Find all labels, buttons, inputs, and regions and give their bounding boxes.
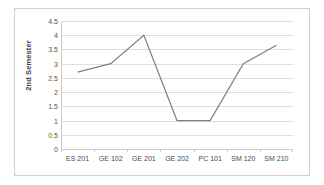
x-axis-tick-labels: ES 201GE 102GE 201GE 202PC 101SM 120SM 2…: [61, 155, 293, 169]
x-axis-tick-label: PC 101: [198, 155, 221, 162]
y-axis-tick-label: 0: [34, 146, 58, 153]
y-axis-tick-labels: 00.511.522.533.544.5: [31, 21, 58, 149]
x-axis-tick-label: GE 102: [99, 155, 123, 162]
y-axis-tick-label: 1.5: [34, 103, 58, 110]
x-axis-tick-label: GE 202: [165, 155, 189, 162]
x-axis-tick-marks: [61, 149, 293, 153]
y-axis-tick-label: 1: [34, 117, 58, 124]
y-axis-tick-label: 0.5: [34, 131, 58, 138]
x-axis-tick-label: SM 210: [264, 155, 288, 162]
x-axis-tick-mark: [194, 149, 195, 152]
y-axis-tick-label: 2.5: [34, 74, 58, 81]
y-axis-tick-label: 3.5: [34, 46, 58, 53]
x-axis-tick-mark: [127, 149, 128, 152]
y-axis-tick-label: 4.5: [34, 18, 58, 25]
x-axis-tick-label: SM 120: [231, 155, 255, 162]
y-axis-tick-label: 3: [34, 60, 58, 67]
y-axis-tick-label: 2: [34, 89, 58, 96]
y-axis-tick-label: 4: [34, 32, 58, 39]
x-axis-tick-label: ES 201: [66, 155, 89, 162]
x-axis-tick-label: GE 201: [132, 155, 156, 162]
x-axis-tick-mark: [160, 149, 161, 152]
x-axis-tick-mark: [227, 149, 228, 152]
x-axis-tick-mark: [260, 149, 261, 152]
chart-frame: 2nd Semester 00.511.522.533.544.5 ES 201…: [14, 8, 310, 176]
x-axis-tick-mark: [94, 149, 95, 152]
x-axis-tick-mark: [292, 149, 293, 152]
series-line-2nd-semester: [61, 21, 293, 149]
x-axis-tick-mark: [61, 149, 62, 152]
